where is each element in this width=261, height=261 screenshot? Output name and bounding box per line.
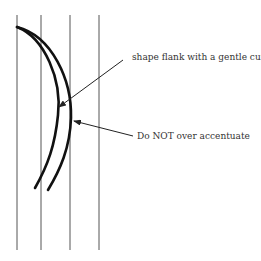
flank-curves bbox=[17, 27, 71, 190]
label-gentle-curve: shape flank with a gentle curve bbox=[132, 53, 261, 62]
arrow-over-accentuate bbox=[74, 121, 133, 136]
label-over-accentuate: Do NOT over accentuate bbox=[137, 132, 250, 141]
arrow-gentle-curve bbox=[59, 60, 123, 107]
vertical-guide-lines bbox=[17, 15, 99, 250]
